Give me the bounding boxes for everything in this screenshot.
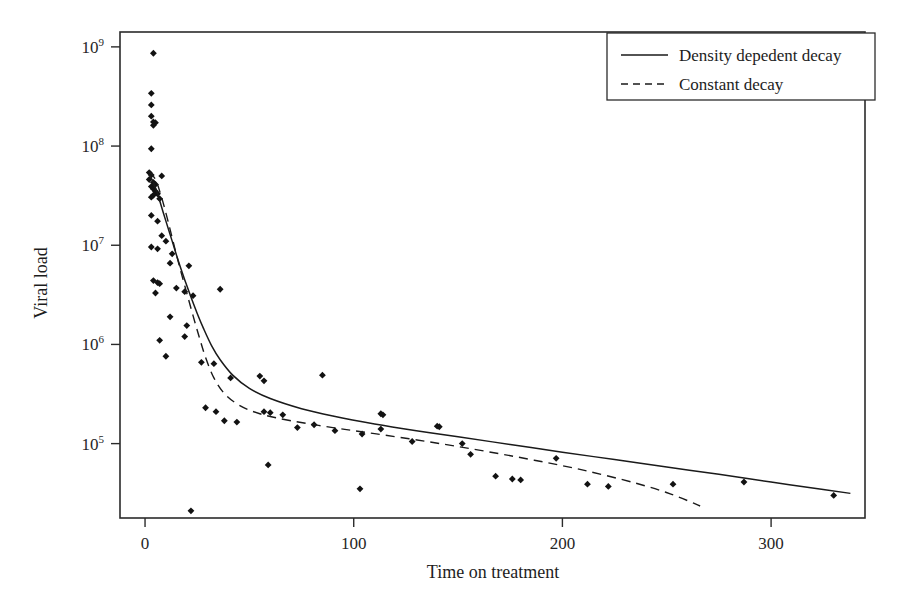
y-axis-title: Viral load [31,247,51,318]
y-tick-label: 109 [82,36,105,57]
chart-figure: 109108107106105 0100200300 Time on treat… [0,0,904,611]
x-axis-title: Time on treatment [427,562,559,582]
y-tick-label: 106 [82,333,105,354]
plot-area-border [120,32,865,518]
y-tick-label: 105 [82,433,105,454]
legend-label-density-dependent-decay: Density depedent decay [679,46,842,65]
x-tick-label: 200 [550,534,576,553]
viral-load-decay-chart: 109108107106105 0100200300 Time on treat… [0,0,904,611]
x-tick-label: 300 [758,534,784,553]
legend-label-constant-decay: Constant decay [679,75,784,94]
x-axis-ticks: 0100200300 [141,518,784,553]
y-axis-ticks: 109108107106105 [82,36,121,454]
x-tick-label: 100 [341,534,367,553]
x-tick-label: 0 [141,534,150,553]
legend: Density depedent decay Constant decay [607,33,875,100]
y-tick-label: 107 [82,234,105,255]
y-tick-label: 108 [82,135,105,156]
plot-frame [120,32,865,518]
